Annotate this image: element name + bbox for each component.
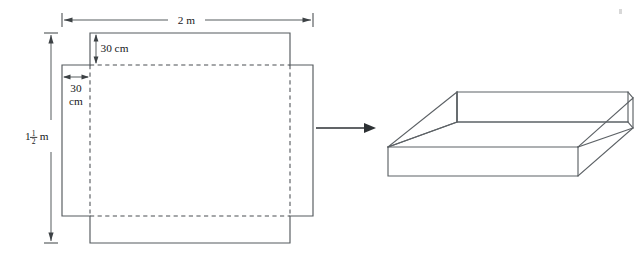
top-flap-arrowhead-up-icon — [94, 34, 99, 42]
top-flap-dimension: 30 cm — [94, 34, 129, 64]
scan-artifact — [619, 9, 622, 14]
left-flap-dimension: 30 cm — [63, 75, 89, 107]
sheet-height-fraction-denominator: 2 — [32, 137, 36, 146]
top-flap-label: 30 cm — [101, 42, 129, 54]
box-right-face-inner-fold — [578, 128, 633, 147]
box-back-wall-top-right-rim — [628, 92, 633, 98]
width-arrowhead-right-icon — [303, 17, 312, 22]
sheet-height-unit: m — [40, 130, 49, 142]
left-flap-label-line1: 30 — [70, 82, 82, 94]
sheet-width-label: 2 m — [178, 14, 195, 26]
transform-arrow-icon — [316, 123, 376, 133]
height-arrowhead-bottom-icon — [48, 233, 53, 242]
left-flap-arrowhead-right-icon — [82, 75, 90, 80]
figure-container: 2 m 1 1 2 m — [0, 0, 641, 260]
height-dimension: 1 1 2 m — [25, 33, 58, 243]
box-back-wall-inner — [457, 92, 628, 122]
width-arrowhead-left-icon — [64, 17, 73, 22]
height-arrowhead-top-icon — [48, 35, 53, 44]
box-net-diagram: 2 m 1 1 2 m — [0, 0, 641, 260]
box-back-wall-bottom-right-rim — [628, 122, 633, 128]
box-outer-shell — [388, 147, 578, 176]
width-dimension: 2 m — [62, 13, 313, 27]
box-left-wall-inner — [388, 92, 457, 147]
top-flap-arrowhead-down-icon — [94, 57, 99, 65]
sheet-height-integer: 1 — [25, 130, 31, 142]
left-flap-label-line2: cm — [69, 95, 83, 107]
net-group: 2 m 1 1 2 m — [25, 13, 313, 243]
sheet-height-fraction-numerator: 1 — [32, 129, 36, 138]
open-box-group — [388, 92, 633, 176]
left-flap-arrowhead-left-icon — [63, 75, 71, 80]
transform-arrow-head — [364, 123, 376, 133]
sheet-height-label: 1 1 2 m — [25, 129, 49, 147]
